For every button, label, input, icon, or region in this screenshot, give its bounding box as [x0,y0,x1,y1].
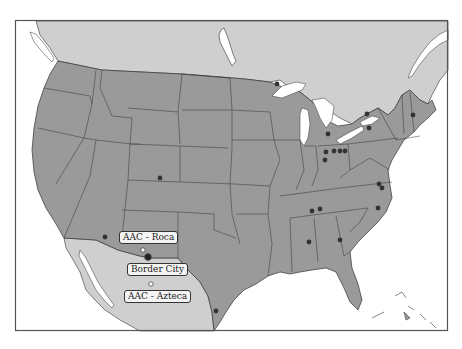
site-dot[interactable] [158,176,163,181]
site-dot[interactable] [367,126,372,131]
site-dot[interactable] [338,238,343,243]
site-dot[interactable] [324,150,329,155]
label-border-city[interactable]: Border City [127,263,188,276]
site-dot[interactable] [214,309,219,314]
label-aac-azteca[interactable]: AAC - Azteca [124,290,191,303]
site-dot[interactable] [376,206,381,211]
site-dot[interactable] [365,112,370,117]
site-dot[interactable] [411,113,416,118]
site-dot[interactable] [326,132,331,137]
aac-site-marker[interactable] [149,282,153,286]
map-canvas [0,0,462,349]
site-dot[interactable] [275,82,280,87]
border-city-marker[interactable] [145,254,152,261]
site-dot[interactable] [310,209,315,214]
label-aac-roca[interactable]: AAC - Roca [119,231,178,244]
site-dot[interactable] [323,158,328,163]
site-dot[interactable] [103,235,108,240]
site-dot[interactable] [307,240,312,245]
site-dot[interactable] [318,207,323,212]
site-dot[interactable] [338,149,343,154]
site-dot[interactable] [332,149,337,154]
site-dot[interactable] [377,182,382,187]
site-dot[interactable] [343,149,348,154]
aac-site-marker[interactable] [141,248,145,252]
site-dot[interactable] [380,186,385,191]
